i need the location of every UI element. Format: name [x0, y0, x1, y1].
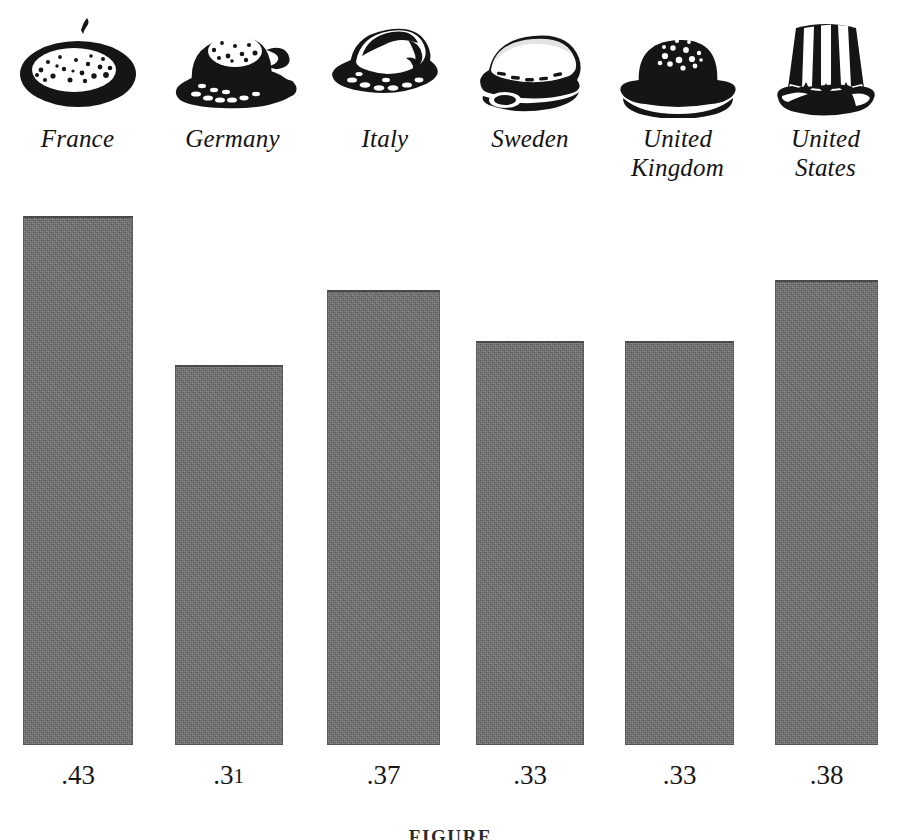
bar-united-kingdom [625, 341, 734, 745]
value-label-france: .43 [23, 760, 133, 790]
figure-container: France [0, 0, 901, 840]
bar-germany [175, 365, 283, 745]
value-label-united-kingdom: .33 [625, 760, 734, 790]
figure-caption: FIGURE [0, 826, 901, 840]
value-label-italy: .37 [327, 760, 440, 790]
bar-sweden [476, 341, 584, 745]
bar-france [23, 216, 133, 745]
value-label-united-states: .38 [775, 760, 878, 790]
bar-united-states [775, 280, 878, 745]
bar-chart-plot [0, 0, 901, 840]
value-label-germany: .31 [175, 760, 283, 791]
bar-italy [327, 290, 440, 745]
value-label-sweden: .33 [476, 760, 584, 790]
